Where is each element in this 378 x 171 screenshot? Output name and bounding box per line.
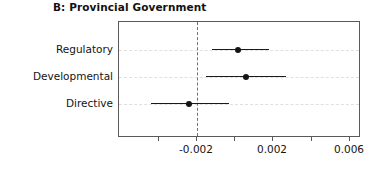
y-axis-label-developmental: Developmental <box>33 70 113 82</box>
estimate-point-marker <box>186 101 192 107</box>
gridline-directive <box>119 104 359 105</box>
zero-reference-line <box>197 22 198 136</box>
forest-plot-figure: B: Provincial Government Regulatory Deve… <box>0 0 378 171</box>
plot-area <box>118 21 360 137</box>
estimate-point-marker <box>235 47 241 53</box>
x-axis-tick-major <box>272 137 273 141</box>
x-axis-label-0006: 0.006 <box>334 143 364 155</box>
x-axis-label-neg0002: -0.002 <box>179 143 213 155</box>
x-axis-tick-minor <box>158 137 159 141</box>
chart-title: B: Provincial Government <box>53 1 206 13</box>
x-axis-label-0002: 0.002 <box>257 143 287 155</box>
x-axis-tick-major <box>349 137 350 141</box>
y-axis-label-regulatory: Regulatory <box>56 43 113 55</box>
x-axis-tick-minor <box>311 137 312 141</box>
x-axis-tick-minor <box>234 137 235 141</box>
y-axis-tick-labels: Regulatory Developmental Directive <box>0 21 113 137</box>
x-axis-tick-major <box>196 137 197 141</box>
y-axis-label-directive: Directive <box>66 97 113 109</box>
gridline-developmental <box>119 77 359 78</box>
estimate-point-marker <box>243 74 249 80</box>
